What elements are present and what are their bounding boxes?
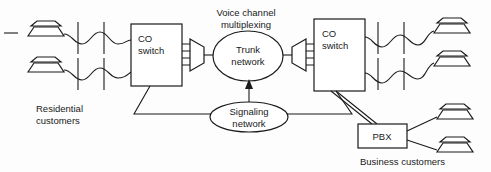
local-loop-line xyxy=(365,31,434,47)
telephone-icon xyxy=(28,21,64,36)
residential-customers-label-line1: Residential xyxy=(36,103,83,114)
pbx-label: PBX xyxy=(372,131,392,142)
pbx-extension-line xyxy=(407,117,437,131)
diagram-canvas: CO switch Voice channel multiplexing Tru… xyxy=(0,0,491,172)
telephone-icon xyxy=(434,51,470,66)
pbx-extension-line xyxy=(407,140,437,150)
signaling-network-label-line1: Signaling xyxy=(229,106,268,117)
business-customers-label: Business customers xyxy=(360,156,445,167)
trunk-network-label-line1: Trunk xyxy=(236,44,260,55)
network-diagram: CO switch Voice channel multiplexing Tru… xyxy=(0,0,491,172)
voice-channel-multiplexing-label-line1: Voice channel xyxy=(216,7,275,18)
multiplexer-icon xyxy=(190,39,204,71)
co-switch-left-label-line2: switch xyxy=(138,45,164,56)
pbx-trunk-line xyxy=(331,91,372,124)
signaling-network-label-line2: network xyxy=(232,118,266,129)
trunk-network-label-line2: network xyxy=(231,56,265,67)
local-loop-line xyxy=(64,32,131,44)
local-loop-line xyxy=(64,68,131,80)
multiplexer-icon xyxy=(292,39,306,71)
pbx-trunk-line xyxy=(336,91,377,124)
voice-channel-multiplexing-label-line2: multiplexing xyxy=(221,19,271,30)
telephone-icon xyxy=(28,57,64,72)
co-switch-right-label-line1: CO xyxy=(322,28,336,39)
telephone-icon xyxy=(437,104,473,119)
local-loop-line xyxy=(365,63,434,83)
co-switch-left-label-line1: CO xyxy=(138,33,152,44)
signaling-link-left-line xyxy=(134,86,212,114)
co-switch-right-label-line2: switch xyxy=(322,40,348,51)
telephone-icon xyxy=(437,137,473,152)
residential-customers-label-line2: customers xyxy=(36,115,80,126)
signaling-link-right-line xyxy=(286,91,352,114)
telephone-icon xyxy=(434,18,470,33)
